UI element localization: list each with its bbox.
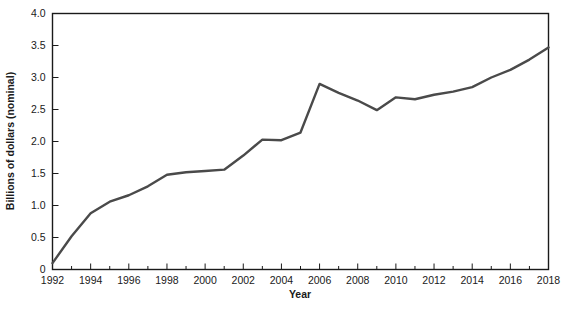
- y-axis-title: Billions of dollars (nominal): [4, 72, 16, 210]
- y-axis-tick-labels: 00.51.01.52.02.53.03.54.0: [31, 7, 46, 275]
- line-chart: 00.51.01.52.02.53.03.54.0 19921994199619…: [0, 0, 566, 313]
- y-tick-label: 1.0: [31, 199, 46, 211]
- y-tick-label: 2.5: [31, 103, 46, 115]
- x-tick-label: 2012: [422, 274, 446, 286]
- x-tick-label: 2010: [384, 274, 408, 286]
- chart-background: [0, 0, 566, 313]
- chart-figure: 00.51.01.52.02.53.03.54.0 19921994199619…: [0, 0, 566, 313]
- y-tick-label: 1.5: [31, 167, 46, 179]
- x-tick-label: 2000: [193, 274, 217, 286]
- y-tick-label: 4.0: [31, 7, 46, 19]
- y-tick-label: 3.5: [31, 39, 46, 51]
- x-tick-label: 1992: [41, 274, 65, 286]
- y-tick-label: 3.0: [31, 71, 46, 83]
- x-tick-label: 2014: [461, 274, 485, 286]
- x-tick-label: 2008: [346, 274, 370, 286]
- x-tick-label: 2006: [308, 274, 332, 286]
- x-tick-label: 2018: [537, 274, 561, 286]
- x-tick-label: 2016: [499, 274, 523, 286]
- x-tick-label: 2002: [232, 274, 256, 286]
- x-tick-label: 1996: [117, 274, 141, 286]
- x-tick-label: 2004: [270, 274, 294, 286]
- y-tick-label: 2.0: [31, 135, 46, 147]
- y-tick-label: 0.5: [31, 231, 46, 243]
- x-axis-title: Year: [289, 288, 311, 300]
- x-tick-label: 1994: [79, 274, 103, 286]
- x-tick-label: 1998: [155, 274, 179, 286]
